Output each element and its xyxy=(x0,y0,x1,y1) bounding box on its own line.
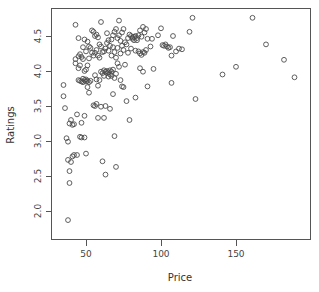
y-tick-label: 2.0 xyxy=(33,204,43,219)
y-tick-label: 2.5 xyxy=(33,169,43,183)
data-point xyxy=(145,84,150,89)
data-point xyxy=(114,71,119,76)
x-axis-title: Price xyxy=(168,272,192,283)
x-axis-ticks: 50100150 xyxy=(80,240,245,260)
data-point xyxy=(61,83,66,88)
data-point xyxy=(114,55,119,60)
data-point xyxy=(118,78,123,83)
data-point xyxy=(156,33,161,38)
data-point xyxy=(133,95,138,100)
data-point xyxy=(171,34,176,39)
data-point xyxy=(85,63,90,68)
data-point xyxy=(174,49,179,54)
y-tick-label: 3.0 xyxy=(33,134,43,149)
data-point xyxy=(75,112,80,117)
data-point xyxy=(127,118,132,123)
y-tick-label: 3.5 xyxy=(33,99,43,113)
data-point xyxy=(76,36,81,41)
data-point xyxy=(79,120,84,125)
data-point xyxy=(190,15,195,20)
x-tick-label: 50 xyxy=(80,249,92,259)
data-point xyxy=(73,22,78,27)
data-point xyxy=(121,48,126,53)
x-tick-label: 100 xyxy=(152,249,169,259)
data-point xyxy=(159,26,164,31)
data-point xyxy=(187,29,192,34)
data-point xyxy=(102,116,107,121)
data-point xyxy=(99,104,104,109)
data-point xyxy=(85,85,90,90)
data-point xyxy=(61,94,66,99)
data-points-layer xyxy=(61,15,297,222)
data-point xyxy=(108,106,113,111)
data-point xyxy=(220,72,225,77)
data-point xyxy=(75,153,80,158)
data-point xyxy=(169,81,174,86)
y-tick-label: 4.5 xyxy=(33,29,43,43)
data-point xyxy=(100,159,105,164)
data-point xyxy=(105,31,110,36)
plot-canvas: 2.02.53.03.54.04.5 50100150 Price Rating… xyxy=(0,0,319,292)
data-point xyxy=(108,43,113,48)
data-point xyxy=(67,181,72,186)
data-point xyxy=(112,134,117,139)
data-point xyxy=(103,172,108,177)
data-point xyxy=(148,44,153,49)
x-tick-label: 150 xyxy=(227,249,244,259)
data-point xyxy=(97,78,102,83)
data-point xyxy=(63,106,68,111)
data-point xyxy=(111,45,116,50)
data-point xyxy=(129,46,134,51)
data-point xyxy=(234,64,239,69)
data-point xyxy=(124,99,129,104)
data-point xyxy=(141,69,146,74)
data-point xyxy=(292,75,297,80)
data-point xyxy=(250,15,255,20)
scatter-plot-figure: 2.02.53.03.54.04.5 50100150 Price Rating… xyxy=(0,0,319,292)
data-point xyxy=(96,83,101,88)
data-point xyxy=(264,42,269,47)
data-point xyxy=(84,49,89,54)
data-point xyxy=(193,97,198,102)
y-tick-label: 4.0 xyxy=(33,64,43,79)
data-point xyxy=(123,62,128,67)
data-point xyxy=(180,47,185,52)
data-point xyxy=(66,218,71,223)
data-point xyxy=(169,53,174,58)
data-point xyxy=(82,113,87,118)
data-point xyxy=(87,90,92,95)
data-point xyxy=(114,165,119,170)
data-point xyxy=(115,46,120,51)
data-point xyxy=(151,67,156,72)
data-point xyxy=(117,18,122,23)
data-point xyxy=(99,20,104,25)
data-point xyxy=(87,56,92,61)
data-point xyxy=(82,135,87,140)
data-point xyxy=(282,57,287,62)
data-point xyxy=(111,92,116,97)
plot-frame xyxy=(52,9,311,240)
data-point xyxy=(103,104,108,109)
y-axis-title: Ratings xyxy=(5,106,16,143)
data-point xyxy=(67,169,72,174)
data-point xyxy=(84,151,89,156)
y-axis-ticks: 2.02.53.03.54.04.5 xyxy=(33,29,52,218)
data-point xyxy=(96,116,101,121)
